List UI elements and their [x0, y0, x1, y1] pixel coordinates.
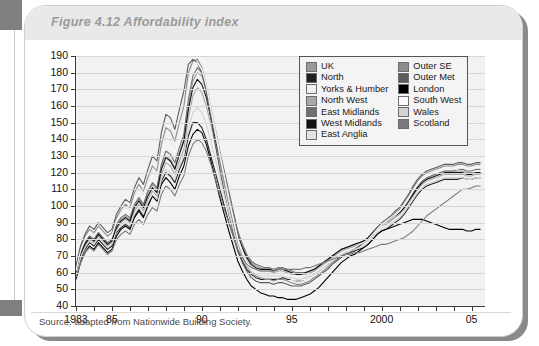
- legend-swatch: [398, 73, 409, 83]
- legend-swatch: [306, 119, 317, 129]
- gridline: [76, 223, 485, 224]
- x-axis-tick: [310, 306, 311, 311]
- y-axis-label: 150: [50, 116, 68, 128]
- legend-swatch: [306, 107, 317, 117]
- gridline: [76, 173, 485, 174]
- x-axis-tick: [292, 306, 293, 311]
- legend-item: Yorks & Humber: [306, 84, 388, 95]
- x-axis-tick: [454, 306, 455, 311]
- y-axis-label: 180: [50, 66, 68, 78]
- y-axis-label: 170: [50, 82, 68, 94]
- y-axis-label: 40: [56, 299, 68, 311]
- x-axis-tick: [76, 306, 77, 311]
- legend-swatch: [306, 62, 317, 72]
- series-line: [76, 129, 481, 299]
- x-axis-label: 05: [466, 313, 478, 325]
- legend-swatch: [398, 96, 409, 106]
- y-axis-label: 120: [50, 166, 68, 178]
- y-axis-tick: [71, 73, 76, 74]
- x-axis-tick: [256, 306, 257, 311]
- legend-item: East Midlands: [306, 107, 388, 118]
- y-axis-tick: [71, 289, 76, 290]
- y-axis-label: 60: [56, 266, 68, 278]
- x-axis-tick: [220, 306, 221, 311]
- y-axis-tick: [71, 106, 76, 107]
- gridline: [76, 256, 485, 257]
- y-axis-tick: [71, 123, 76, 124]
- x-axis-label: 2000: [370, 313, 393, 325]
- legend-label: UK: [321, 62, 334, 71]
- figure-title: Figure 4.12 Affordability index: [51, 15, 239, 29]
- legend-label: Outer SE: [413, 62, 451, 71]
- x-axis-label: 95: [286, 313, 298, 325]
- legend-swatch: [398, 84, 409, 94]
- y-axis-tick: [71, 256, 76, 257]
- y-axis-tick: [71, 173, 76, 174]
- gridline: [76, 206, 485, 207]
- legend-swatch: [306, 73, 317, 83]
- legend-item: Wales: [398, 107, 461, 118]
- legend-swatch: [306, 130, 317, 140]
- legend-label: North: [321, 73, 344, 82]
- x-axis-tick: [436, 306, 437, 311]
- legend-swatch: [306, 84, 317, 94]
- legend-item: North: [306, 72, 388, 83]
- legend-column: Outer SEOuter MetLondonSouth WestWalesSc…: [398, 61, 461, 141]
- x-axis-tick: [130, 306, 131, 311]
- y-axis-label: 90: [56, 216, 68, 228]
- x-axis-tick: [94, 306, 95, 311]
- source-divider: [31, 312, 511, 313]
- x-axis-tick: [166, 306, 167, 311]
- y-axis-tick: [71, 189, 76, 190]
- y-axis-tick: [71, 56, 76, 57]
- legend-item: London: [398, 84, 461, 95]
- y-axis-tick: [71, 206, 76, 207]
- y-axis-label: 190: [50, 49, 68, 61]
- legend-label: Yorks & Humber: [321, 85, 388, 94]
- x-axis-tick: [184, 306, 185, 311]
- legend-swatch: [398, 119, 409, 129]
- x-axis-tick: [238, 306, 239, 311]
- y-axis-label: 100: [50, 199, 68, 211]
- legend-item: Scotland: [398, 118, 461, 129]
- page-gutter-top: [0, 0, 22, 30]
- chart-legend: UKNorthYorks & HumberNorth WestEast Midl…: [299, 56, 468, 146]
- y-axis-label: 130: [50, 149, 68, 161]
- legend-item: Outer SE: [398, 61, 461, 72]
- y-axis-label: 160: [50, 99, 68, 111]
- legend-label: South West: [413, 96, 461, 105]
- legend-label: Outer Met: [413, 73, 454, 82]
- legend-item: South West: [398, 95, 461, 106]
- y-axis-label: 140: [50, 132, 68, 144]
- x-axis-tick: [274, 306, 275, 311]
- x-axis-tick: [346, 306, 347, 311]
- gridline: [76, 156, 485, 157]
- legend-label: East Anglia: [321, 130, 368, 139]
- source-note: Source: adapted from Nationwide Building…: [39, 316, 252, 327]
- gridline: [76, 289, 485, 290]
- x-axis-tick: [472, 306, 473, 311]
- y-axis-label: 80: [56, 232, 68, 244]
- gridline: [76, 189, 485, 190]
- x-axis-tick: [400, 306, 401, 311]
- figure-card: Figure 4.12 Affordability index 40506070…: [24, 5, 523, 337]
- y-axis-tick: [71, 239, 76, 240]
- x-axis-tick: [382, 306, 383, 311]
- y-axis-tick: [71, 273, 76, 274]
- x-axis-tick: [112, 306, 113, 311]
- legend-item: UK: [306, 61, 388, 72]
- legend-swatch: [398, 62, 409, 72]
- legend-label: North West: [321, 96, 367, 105]
- legend-label: East Midlands: [321, 108, 379, 117]
- legend-item: East Anglia: [306, 129, 388, 140]
- x-axis-tick: [364, 306, 365, 311]
- y-axis-tick: [71, 156, 76, 157]
- x-axis-tick: [328, 306, 329, 311]
- y-axis-label: 110: [51, 182, 68, 194]
- y-axis-label: 50: [56, 282, 68, 294]
- legend-item: West Midlands: [306, 118, 388, 129]
- y-axis-tick: [71, 223, 76, 224]
- page-gutter-middle: [0, 30, 15, 300]
- legend-column: UKNorthYorks & HumberNorth WestEast Midl…: [306, 61, 388, 141]
- gridline: [76, 273, 485, 274]
